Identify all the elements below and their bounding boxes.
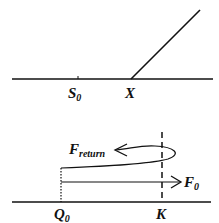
top-diagram: S0 X bbox=[12, 10, 213, 103]
k-label: K bbox=[155, 206, 167, 222]
f-return-label: Freturn bbox=[68, 141, 106, 159]
diagram-canvas: S0 X Freturn F0 Q0 K bbox=[0, 0, 219, 223]
payoff-kink-line bbox=[131, 10, 200, 79]
x-label: X bbox=[124, 85, 136, 101]
s0-label: S0 bbox=[68, 85, 81, 103]
bottom-diagram: Freturn F0 Q0 K bbox=[12, 132, 211, 223]
f0-arrow bbox=[61, 176, 181, 188]
q0-label: Q0 bbox=[54, 206, 70, 223]
f0-label: F0 bbox=[183, 174, 199, 192]
